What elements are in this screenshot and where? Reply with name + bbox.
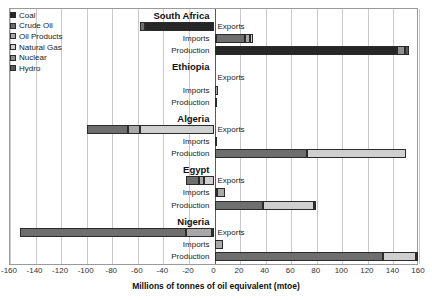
legend-item[interactable]: Nuclear — [10, 52, 92, 63]
x-tick-label: 20 — [235, 266, 244, 275]
legend-swatch-icon — [10, 55, 16, 61]
legend-item[interactable]: Coal — [10, 10, 92, 21]
x-tick-label: 140 — [386, 266, 399, 275]
bar-segment-natural-gas[interactable] — [140, 125, 214, 134]
legend-label: Nuclear — [19, 53, 47, 62]
bar-row[interactable]: Exports — [10, 228, 417, 237]
x-tick-label: -60 — [131, 266, 143, 275]
bar-group: AlgeriaExportsImportsProduction — [10, 112, 417, 163]
bar-row[interactable]: Imports — [10, 86, 417, 95]
bar-segment-natural-gas[interactable] — [204, 176, 214, 185]
bar-row[interactable]: Imports — [10, 137, 417, 146]
legend-swatch-icon — [10, 33, 16, 39]
x-tick-label: -120 — [52, 266, 68, 275]
legend-swatch-icon — [10, 65, 16, 71]
legend-label: Oil Products — [19, 32, 63, 41]
bar-segment-coal[interactable] — [215, 46, 398, 55]
row-label-production: Production — [171, 98, 212, 107]
bar-segment-oil-products[interactable] — [186, 228, 212, 237]
group-title-egypt: Egypt — [183, 164, 212, 175]
row-label-exports: Exports — [215, 125, 245, 134]
group-title-algeria: Algeria — [177, 113, 212, 124]
bar-segment-natural-gas[interactable] — [307, 149, 407, 158]
group-title-south-africa: South Africa — [153, 10, 212, 21]
bar-row[interactable]: Exports — [10, 176, 417, 185]
x-tick-label: -100 — [78, 266, 94, 275]
bar-segment-crude-oil[interactable] — [216, 34, 245, 43]
gridline — [419, 9, 420, 264]
row-label-production: Production — [171, 46, 212, 55]
bar-segment-crude-oil[interactable] — [87, 125, 128, 134]
legend-label: Crude Oil — [19, 21, 53, 30]
bar-row[interactable]: Production — [10, 201, 417, 210]
bar-segment-crude-oil[interactable] — [215, 149, 307, 158]
legend-label: Natural Gas — [19, 43, 62, 52]
x-tick-label: 120 — [360, 266, 373, 275]
legend-label: Hydro — [19, 64, 40, 73]
bar-segment-oil-products[interactable] — [217, 188, 225, 197]
bar-segment-natural-gas[interactable] — [383, 252, 416, 261]
legend-item[interactable]: Oil Products — [10, 31, 92, 42]
bar-segment-natural-gas[interactable] — [212, 228, 215, 237]
row-label-imports: Imports — [183, 240, 213, 249]
bar-row[interactable]: Production — [10, 149, 417, 158]
row-label-imports: Imports — [183, 188, 213, 197]
bar-row[interactable]: Exports — [10, 73, 417, 82]
legend-swatch-icon — [10, 12, 16, 18]
group-title-nigeria: Nigeria — [177, 216, 212, 227]
bar-segment-natural-gas[interactable] — [263, 201, 314, 210]
row-label-production: Production — [171, 201, 212, 210]
x-tick-label: -160 — [1, 266, 17, 275]
x-axis-ticks: -160-140-120-100-80-60-40-20020406080100… — [9, 266, 418, 280]
x-tick-label: 100 — [335, 266, 348, 275]
x-tick-label: -140 — [27, 266, 43, 275]
legend-swatch-icon — [10, 23, 16, 29]
bar-group: NigeriaExportsImportsProduction — [10, 215, 417, 266]
x-tick-label: -20 — [182, 266, 194, 275]
bar-row[interactable]: Production — [10, 252, 417, 261]
chart-root: South AfricaExportsImportsProductionEthi… — [0, 0, 432, 300]
x-tick-label: -80 — [105, 266, 117, 275]
bar-segment-nuclear[interactable] — [397, 46, 405, 55]
row-label-production: Production — [171, 252, 212, 261]
legend-item[interactable]: Crude Oil — [10, 21, 92, 32]
bar-segment-oil-products[interactable] — [215, 137, 218, 146]
bar-segment-crude-oil[interactable] — [20, 228, 186, 237]
bar-segment-oil-products[interactable] — [215, 240, 224, 249]
bar-segment-crude-oil[interactable] — [140, 22, 145, 31]
bar-segment-crude-oil[interactable] — [215, 201, 264, 210]
row-label-exports: Exports — [215, 73, 245, 82]
x-tick-label: 60 — [286, 266, 295, 275]
bar-segment-hydro[interactable] — [314, 201, 316, 210]
bar-row[interactable]: Exports — [10, 125, 417, 134]
x-tick-label: 160 — [411, 266, 424, 275]
row-label-exports: Exports — [215, 22, 245, 31]
group-title-ethiopia: Ethiopia — [172, 61, 212, 72]
x-tick-label: 80 — [311, 266, 320, 275]
x-axis-title: Millions of tonnes of oil equivalent (mt… — [0, 281, 432, 291]
row-label-imports: Imports — [183, 34, 213, 43]
row-label-exports: Exports — [215, 176, 245, 185]
legend-item[interactable]: Hydro — [10, 63, 92, 74]
bar-row[interactable]: Imports — [10, 240, 417, 249]
bar-row[interactable]: Imports — [10, 188, 417, 197]
row-label-imports: Imports — [183, 137, 213, 146]
row-label-imports: Imports — [183, 86, 213, 95]
bar-segment-hydro[interactable] — [215, 98, 217, 107]
bar-segment-hydro[interactable] — [405, 46, 409, 55]
row-label-production: Production — [171, 149, 212, 158]
legend-item[interactable]: Natural Gas — [10, 42, 92, 53]
bar-segment-crude-oil[interactable] — [186, 176, 199, 185]
bar-segment-coal[interactable] — [145, 22, 214, 31]
bar-segment-natural-gas[interactable] — [250, 34, 253, 43]
bar-segment-oil-products[interactable] — [128, 125, 141, 134]
bar-row[interactable]: Production — [10, 98, 417, 107]
legend-swatch-icon — [10, 44, 16, 50]
bar-segment-crude-oil[interactable] — [215, 252, 384, 261]
bar-segment-oil-products[interactable] — [199, 176, 204, 185]
chart-legend: CoalCrude OilOil ProductsNatural GasNucl… — [10, 10, 92, 74]
bar-group: EgyptExportsImportsProduction — [10, 163, 417, 214]
bar-segment-oil-products[interactable] — [215, 86, 219, 95]
bar-segment-hydro[interactable] — [416, 252, 418, 261]
x-tick-label: 0 — [211, 266, 215, 275]
